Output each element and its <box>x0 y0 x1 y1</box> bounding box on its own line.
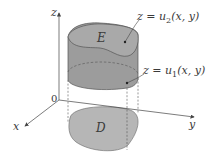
solid-e-label: E <box>97 31 106 45</box>
lower-surface-equation: z = u1(x, y) <box>143 64 205 79</box>
lower-surface-point <box>126 82 128 84</box>
y-axis-label: y <box>189 118 195 131</box>
solid-region-figure: z 0 x y E D z = u2(x, y) z = u1(x, y) <box>0 0 208 155</box>
upper-surface-point <box>124 41 126 43</box>
region-d-label: D <box>96 121 106 135</box>
upper-surface-equation: z = u2(x, y) <box>137 10 199 25</box>
z-axis-label: z <box>51 6 57 19</box>
x-axis-label: x <box>13 120 19 133</box>
origin-label: 0 <box>51 93 57 104</box>
